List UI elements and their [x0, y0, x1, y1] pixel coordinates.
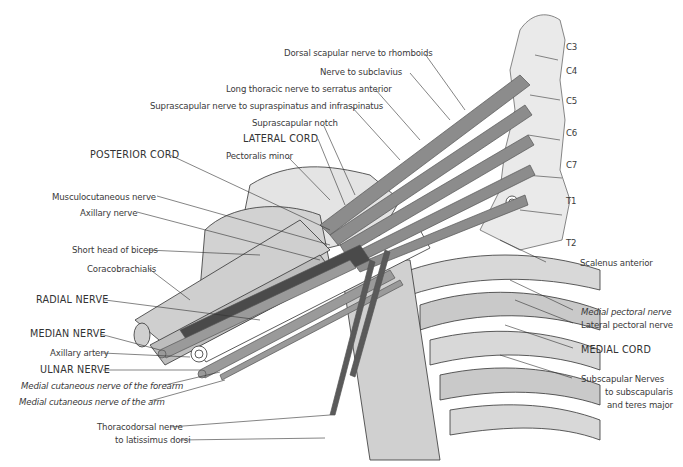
label-to-subscapularis: to subscapularis: [605, 387, 673, 397]
label-long-thoracic-nerve: Long thoracic nerve to serratus anterior: [226, 84, 392, 94]
label-musculocutaneous-nerve: Musculocutaneous nerve: [52, 192, 156, 202]
label-to-latissimus-dorsi: to latissimus dorsi: [115, 435, 190, 445]
label-medial-cutaneous-forearm: Medial cutaneous nerve of the forearm: [21, 381, 183, 391]
label-and-teres-major: and teres major: [607, 400, 673, 410]
label-subscapular-nerves: Subscapular Nerves: [581, 374, 664, 384]
label-coracobrachialis: Coracobrachialis: [87, 264, 156, 274]
label-suprascapular-nerve: Suprascapular nerve to supraspinatus and…: [150, 101, 383, 111]
vertebra-label-c6: C6: [566, 128, 577, 138]
label-suprascapular-notch: Suprascapular notch: [252, 118, 338, 128]
label-thoracodorsal-nerve: Thoracodorsal nerve: [97, 422, 183, 432]
label-medial-cutaneous-arm: Medial cutaneous nerve of the arm: [19, 397, 165, 407]
label-medial-cord: MEDIAL CORD: [581, 345, 651, 355]
label-pectoralis-minor: Pectoralis minor: [226, 151, 293, 161]
label-lateral-pectoral-nerve: Lateral pectoral nerve: [581, 320, 673, 330]
vertebra-label-c5: C5: [566, 96, 577, 106]
label-axillary-nerve: Axillary nerve: [80, 208, 137, 218]
label-scalenus-anterior: Scalenus anterior: [580, 258, 653, 268]
vertebra-label-t1: T1: [566, 196, 576, 206]
vertebra-label-c3: C3: [566, 42, 577, 52]
label-short-head-of-biceps: Short head of biceps: [72, 245, 158, 255]
label-radial-nerve: RADIAL NERVE: [36, 295, 108, 305]
label-posterior-cord: POSTERIOR CORD: [90, 150, 179, 160]
label-ulnar-nerve: ULNAR NERVE: [40, 365, 110, 375]
label-lateral-cord: LATERAL CORD: [243, 134, 318, 144]
vertebra-label-c4: C4: [566, 66, 577, 76]
vertebra-label-t2: T2: [566, 238, 576, 248]
label-dorsal-scapular-nerve: Dorsal scapular nerve to rhomboids: [284, 48, 433, 58]
vertebra-label-c7: C7: [566, 160, 577, 170]
label-median-nerve: MEDIAN NERVE: [30, 329, 106, 339]
label-axillary-artery: Axillary artery: [50, 348, 109, 358]
label-nerve-to-subclavius: Nerve to subclavius: [320, 67, 402, 77]
label-medial-pectoral-nerve: Medial pectoral nerve: [581, 307, 671, 317]
